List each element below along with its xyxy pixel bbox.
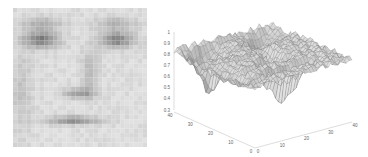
- y-tick-label: 0: [250, 149, 253, 154]
- x-tick-label: 40: [352, 123, 358, 128]
- z-tick-label: 0.5: [164, 85, 171, 90]
- face-pixel-grid: [13, 8, 147, 147]
- surface-plot: 0.30.40.50.60.70.80.91 010203040 0102030…: [160, 0, 368, 157]
- z-tick-label: 0.9: [164, 41, 171, 46]
- x-tick-label: 30: [328, 130, 334, 135]
- face-image: [13, 8, 147, 147]
- y-axis-ticks: 010203040: [167, 113, 252, 154]
- x-tick-label: 10: [280, 143, 286, 148]
- x-tick-label: 0: [257, 149, 260, 154]
- z-tick-label: 0.3: [164, 108, 171, 113]
- y-tick-label: 40: [167, 113, 173, 118]
- x-axis-ticks: 010203040: [257, 123, 358, 154]
- z-tick-label: 0.4: [164, 96, 171, 101]
- z-tick-label: 0.7: [164, 63, 171, 68]
- x-tick-label: 20: [304, 136, 310, 141]
- surface-plot-canvas: 0.30.40.50.60.70.80.91 010203040 0102030…: [160, 0, 368, 157]
- z-tick-label: 0.8: [164, 52, 171, 57]
- surface-mesh: [174, 23, 352, 104]
- y-tick-label: 30: [188, 122, 194, 127]
- z-axis-ticks: 0.30.40.50.60.70.80.91: [164, 30, 171, 113]
- y-tick-label: 10: [228, 140, 234, 145]
- y-tick-label: 20: [208, 131, 214, 136]
- z-tick-label: 0.6: [164, 74, 171, 79]
- z-tick-label: 1: [167, 30, 170, 35]
